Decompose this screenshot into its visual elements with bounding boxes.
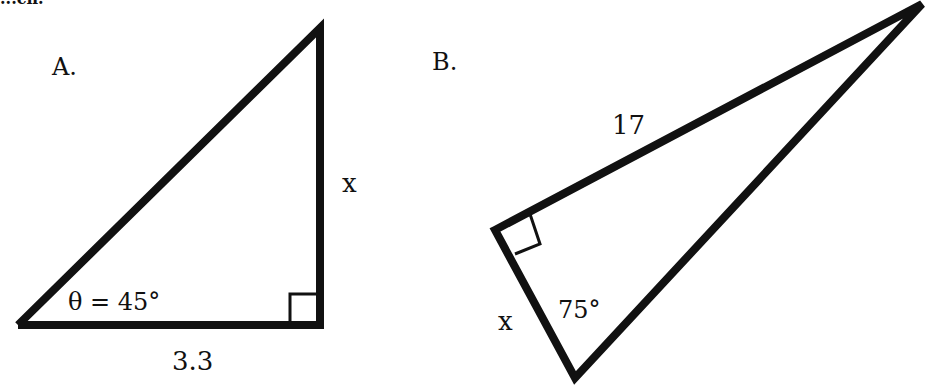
angle-label-b: 75°: [558, 296, 601, 324]
clipped-header-text: ...ch.: [0, 0, 44, 8]
base-label-a: 3.3: [172, 346, 213, 376]
right-angle-marker-b: [512, 214, 540, 254]
triangle-a: A. θ = 45° 3.3 x: [18, 28, 357, 376]
panel-label-a: A.: [51, 53, 77, 81]
right-angle-marker-a: [290, 294, 318, 323]
side-label-b-x: x: [498, 306, 513, 336]
side-label-a-x: x: [342, 168, 357, 198]
diagram-canvas: ...ch. A. θ = 45° 3.3 x B. 17 x 75°: [0, 0, 928, 387]
side-label-b-17: 17: [612, 110, 645, 140]
panel-label-b: B.: [432, 48, 457, 76]
triangle-b: B. 17 x 75°: [432, 4, 922, 378]
angle-label-a: θ = 45°: [68, 288, 160, 316]
